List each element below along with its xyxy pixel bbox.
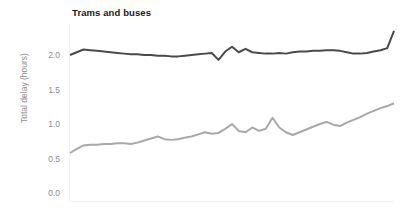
chart-canvas xyxy=(0,0,402,218)
series-line-buses xyxy=(70,103,394,153)
chart-figure: Trams and buses Total delay (hours) 2.0 … xyxy=(0,0,402,218)
series-line-trams xyxy=(70,31,394,60)
plot-area xyxy=(0,0,402,218)
